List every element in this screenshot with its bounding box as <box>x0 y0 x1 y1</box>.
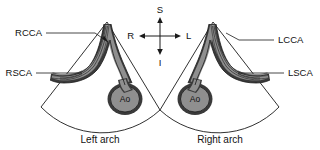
panel-caption-right: Right arch <box>197 134 243 145</box>
vessel-label-lcca: LCCA <box>278 34 304 45</box>
panel-right-arch <box>160 22 279 133</box>
arrow-left-icon <box>175 33 181 39</box>
panel-left-arch: Ao RCCA RSCA Left arch <box>6 22 160 145</box>
figure-canvas: Ao RCCA RSCA Left arch Ao LCCA LSCA Righ… <box>0 0 320 150</box>
compass-label-right: R <box>127 30 134 41</box>
arrow-right-icon <box>139 33 145 39</box>
vessel-label-rsca: RSCA <box>6 67 33 78</box>
panel-caption-left: Left arch <box>81 134 120 145</box>
compass-label-left: L <box>186 30 191 41</box>
arrow-inferior-icon <box>157 49 163 55</box>
leader-line-lcca <box>226 33 274 40</box>
vessel-label-rcca: RCCA <box>15 27 43 38</box>
arrow-superior-icon <box>157 17 163 23</box>
vessel-label-lsca: LSCA <box>288 67 313 78</box>
aorta-label-left: Ao <box>120 94 131 104</box>
compass-label-inferior: I <box>159 57 162 68</box>
aortic-arch-diagram: Ao RCCA RSCA Left arch Ao LCCA LSCA Righ… <box>0 0 320 150</box>
aorta-label-right: Ao <box>190 94 201 104</box>
compass-label-superior: S <box>157 4 163 15</box>
orientation-compass: S I R L <box>127 4 191 68</box>
